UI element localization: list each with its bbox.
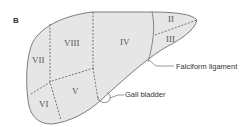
gallbladder-label: Gall bladder xyxy=(125,90,166,99)
segment-vii-label: VII xyxy=(32,55,45,65)
segment-iv-label: IV xyxy=(120,37,130,47)
segment-vi-label: VI xyxy=(39,99,49,109)
segment-viii-label: VIII xyxy=(64,38,80,48)
gallbladder-leader xyxy=(110,95,124,98)
falciform-leader xyxy=(149,60,174,66)
segment-v-label: V xyxy=(72,86,79,96)
falciform-ligament-label: Falciform ligament xyxy=(176,62,238,71)
panel-label: B xyxy=(13,16,19,25)
liver-segments-diagram: B VIII IV VII II III VI V Falciform liga… xyxy=(0,0,250,127)
segment-ii-label: II xyxy=(168,14,174,24)
segment-iii-label: III xyxy=(166,34,175,44)
